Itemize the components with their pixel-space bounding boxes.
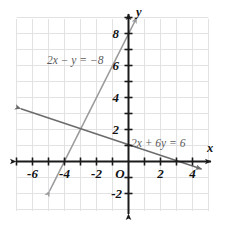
y-tick-label-4: 4 xyxy=(112,90,120,105)
y-axis-name: y xyxy=(134,5,142,19)
y-tick-label-6: 6 xyxy=(113,58,120,73)
origin-label: O xyxy=(115,166,125,181)
y-tick-label-8: 8 xyxy=(113,26,120,41)
x-tick-label-neg6: -6 xyxy=(27,166,38,181)
x-tick-label-2: 2 xyxy=(156,166,164,181)
x-tick-label-neg2: -2 xyxy=(91,166,102,181)
x-axis-name: x xyxy=(206,141,213,155)
graph-svg: -6 -4 -2 O 2 4 8 6 4 2 -2 y x 2x − y = −… xyxy=(0,0,227,226)
coordinate-plane-figure: -6 -4 -2 O 2 4 8 6 4 2 -2 y x 2x − y = −… xyxy=(0,0,227,226)
x-tick-label-4: 4 xyxy=(188,166,196,181)
y-tick-label-neg2: -2 xyxy=(111,186,122,201)
equation-label-line1: 2x − y = −8 xyxy=(47,54,104,67)
y-tick-label-2: 2 xyxy=(112,122,120,137)
equation-label-line2: 2x + 6y = 6 xyxy=(131,137,186,150)
x-tick-label-neg4: -4 xyxy=(59,166,70,181)
